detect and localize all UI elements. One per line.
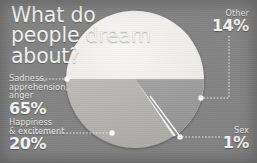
leader-dot-other [198,95,203,100]
page-title: What do people dream about? [11,5,151,66]
leader-dot-happiness [109,130,114,135]
callout-sex: Sex 1% [185,126,249,152]
callout-happiness: Happiness & excitement 20% [9,118,85,153]
callout-sadness-percent: 65% [9,101,81,118]
callout-sadness: Sadness, apprehension, anger 65% [9,74,81,118]
infographic-poster: What do people dream about? Sadness, app… [0,0,257,163]
callout-sex-percent: 1% [185,135,249,152]
callout-other-percent: 14% [171,18,249,35]
callout-other: Other 14% [171,9,249,35]
leader-line-other [203,36,229,98]
leader-dot-sex [177,134,182,139]
callout-happiness-percent: 20% [9,136,85,153]
